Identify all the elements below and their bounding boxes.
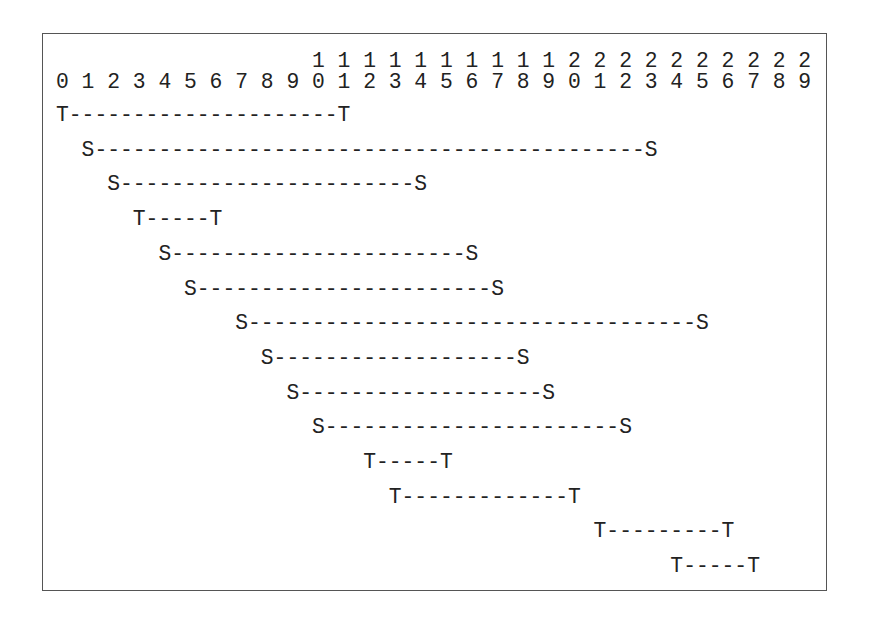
interval-row: S---------------------------------------… [56,139,658,161]
interval-row: T-----T [56,555,760,577]
interval-row: S-------------------S [56,382,555,404]
interval-row: S-----------------------S [56,416,632,438]
ruler-tens: 1 1 1 1 1 1 1 1 1 1 2 2 2 2 2 2 2 2 2 2 [56,50,811,72]
interval-row: T---------T [56,520,734,542]
interval-row: S-----------------------S [56,173,427,195]
interval-row: S-----------------------S [56,278,504,300]
interval-row: T-----T [56,451,453,473]
interval-row: S-----------------------------------S [56,312,709,334]
interval-row: T-------------T [56,486,581,508]
interval-row: S-----------------------S [56,243,478,265]
interval-row: T---------------------T [56,104,350,126]
interval-row: S-------------------S [56,347,530,369]
ruler-units: 0 1 2 3 4 5 6 7 8 9 0 1 2 3 4 5 6 7 8 9 … [56,71,811,93]
interval-row: T-----T [56,208,222,230]
